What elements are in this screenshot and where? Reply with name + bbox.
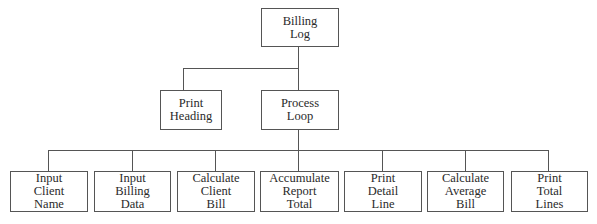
connector-to-process-loop — [298, 68, 299, 90]
box-print-total-lines: Print Total Lines — [511, 171, 588, 212]
connector-to-print-total-lines — [548, 150, 549, 171]
connector-to-print-heading — [183, 68, 184, 90]
connector-root-down — [298, 47, 299, 68]
box-label-line: Line — [372, 198, 395, 211]
box-label-line: Log — [290, 28, 310, 41]
connector-level2-bus — [183, 68, 299, 69]
box-label-line: Loop — [287, 110, 313, 123]
connector-to-accumulate-report-total — [298, 150, 299, 171]
box-label-line: Name — [34, 198, 64, 211]
box-label-line: Lines — [536, 198, 564, 211]
connector-to-calculate-client-bill — [215, 150, 216, 171]
connector-to-print-detail-line — [382, 150, 383, 171]
box-label-line: Heading — [170, 110, 212, 123]
connector-to-input-client-name — [48, 150, 49, 171]
connector-to-input-billing-data — [132, 150, 133, 171]
box-accumulate-report-total: Accumulate Report Total — [260, 171, 339, 212]
box-billing-log: Billing Log — [261, 8, 339, 47]
box-label-line: Bill — [456, 198, 475, 211]
box-calculate-client-bill: Calculate Client Bill — [177, 171, 255, 212]
box-calculate-average-bill: Calculate Average Bill — [427, 171, 504, 212]
box-label-line: Billing — [283, 15, 318, 28]
connector-process-loop-down — [298, 130, 299, 151]
box-process-loop: Process Loop — [261, 90, 339, 130]
box-input-client-name: Input Client Name — [10, 171, 88, 212]
box-label-line: Total — [287, 198, 313, 211]
box-print-detail-line: Print Detail Line — [344, 171, 422, 212]
box-input-billing-data: Input Billing Data — [94, 171, 171, 212]
connector-to-calculate-average-bill — [465, 150, 466, 171]
hierarchy-chart: Billing Log Print Heading Process Loop I… — [0, 0, 597, 224]
box-print-heading: Print Heading — [160, 90, 222, 130]
box-label-line: Data — [121, 198, 145, 211]
box-label-line: Bill — [207, 198, 226, 211]
